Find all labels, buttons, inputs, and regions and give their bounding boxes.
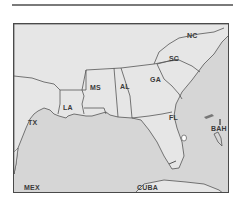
top-divider [12, 4, 233, 6]
label-cuba: CUBA [137, 184, 158, 191]
label-la: LA [63, 104, 73, 111]
lake-okeechobee [182, 135, 187, 141]
label-fl: FL [169, 114, 178, 121]
map-graphic [14, 24, 229, 193]
label-nc: NC [187, 32, 198, 39]
label-bah: BAH [211, 125, 227, 132]
label-tx: TX [28, 119, 37, 126]
label-ga: GA [150, 76, 161, 83]
label-ms: MS [90, 84, 101, 91]
label-mex: MEX [24, 184, 40, 191]
label-sc: SC [169, 55, 179, 62]
label-al: AL [120, 83, 130, 90]
map-frame: NC SC GA AL MS LA TX FL BAH MEX CUBA [13, 23, 229, 193]
